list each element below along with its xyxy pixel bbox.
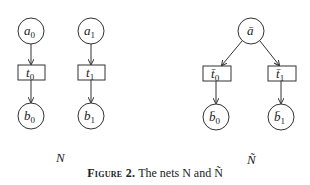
label-a0: a0: [24, 23, 36, 40]
label-b1: b1: [84, 108, 95, 125]
label-b0bar: b̄0: [209, 109, 221, 126]
arc-abar-t0bar: [222, 41, 242, 65]
net-left-name: N: [56, 150, 65, 166]
caption-text: The nets N and Ñ: [138, 166, 223, 180]
label-a1: a1: [84, 23, 95, 40]
petri-net-diagram: a0 t0 b0 a1 t1 b1 ā t̄0 t̄1 b̄0 b̄1: [0, 0, 310, 185]
caption-label: Figure 2.: [87, 166, 135, 180]
figure-caption: Figure 2. The nets N and Ñ: [0, 166, 310, 181]
label-t1: t1: [86, 65, 94, 82]
label-t1bar: t̄1: [276, 66, 284, 83]
label-t0bar: t̄0: [211, 66, 220, 83]
arc-abar-t1bar: [260, 41, 279, 65]
label-abar: ā: [247, 23, 254, 38]
label-t0: t0: [26, 65, 35, 82]
label-b1bar: b̄1: [274, 109, 285, 126]
label-b0: b0: [24, 108, 36, 125]
